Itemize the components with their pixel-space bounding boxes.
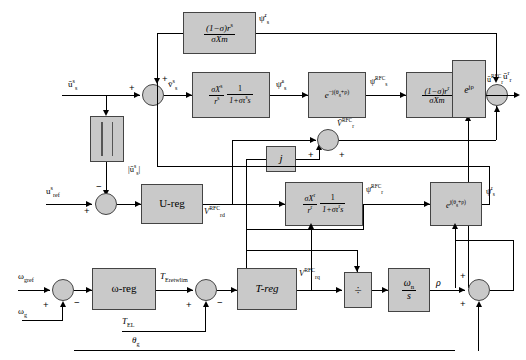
integrator-block: ωn s	[388, 268, 430, 312]
v-s-summer-sign-left: +	[129, 83, 135, 93]
arrow-vrd-into-vrsummer	[310, 137, 316, 143]
divide-block: ÷	[344, 272, 372, 308]
wire-omega-g-up	[62, 304, 63, 321]
signal-psi-r-rfc: ψ̄RFCr	[366, 184, 383, 196]
wire-feedback-bus-up	[157, 33, 158, 166]
speed-sign-bottom: −	[74, 298, 80, 308]
signal-omega-gref: ωgref	[18, 272, 34, 283]
exp-negative-rotation-block: e−j(θg+ρ)	[308, 72, 366, 118]
angle-sign-bottom: +	[460, 299, 466, 309]
wire-psir-to-divide	[246, 250, 358, 251]
angle-summer	[468, 279, 490, 301]
wire-psir-left	[246, 229, 364, 230]
exp-rho-block: ejρ	[452, 60, 486, 118]
wire-vrd-to-summer	[232, 140, 316, 141]
v-r-sign-left: +	[308, 150, 314, 160]
signal-u-r-rfc: ūRFCr	[487, 74, 503, 86]
omega-regulator-block: ω-reg	[92, 268, 156, 310]
angle-sign-left: +	[460, 271, 466, 281]
wire-omega-g	[22, 320, 63, 321]
signal-u-s-s: ūss	[68, 78, 77, 91]
signal-u-r-r: ūrr	[503, 70, 512, 83]
abs-bars-icon	[101, 122, 114, 156]
signal-omega-g: ωg	[18, 307, 27, 318]
signal-psi-s-rfc: ψ̄RFCs	[370, 76, 387, 88]
speed-error-summer	[52, 279, 74, 301]
torque-sign-left: +	[186, 300, 192, 310]
u-regulator-block: U-reg	[141, 184, 203, 224]
stator-coupling-block: (1−σ)rs σXm	[183, 12, 256, 54]
wire-input-us	[62, 95, 140, 96]
wire-psisr-up	[489, 166, 490, 204]
absolute-value-block	[90, 116, 124, 162]
wire-anglesum-out	[490, 290, 514, 291]
divide-label: ÷	[354, 283, 361, 297]
wire-vr-up-to-ursummer	[496, 106, 497, 140]
t-reg-label: T-reg	[255, 283, 278, 295]
j-label: j	[279, 153, 282, 165]
wire-vrq-up	[311, 226, 312, 290]
wire-top-coupling-left-h	[157, 33, 183, 34]
u-error-sign-left: +	[84, 206, 90, 216]
u-error-summer	[95, 193, 117, 215]
wire-psir-bus-down	[246, 229, 247, 251]
arrow-into-divide	[336, 287, 342, 293]
signal-v-s-s: v̄ss	[168, 78, 177, 91]
wire-theta-g-bus	[74, 350, 455, 351]
rotor-transfer-block: σXr rr 1 1+στrs	[285, 182, 363, 226]
wire-vrd-up	[232, 140, 233, 204]
arrow-omegagref-into-summer	[44, 287, 50, 293]
v-s-summer-sign-top: +	[162, 74, 168, 84]
signal-u-ref-s: usref	[46, 185, 60, 198]
signal-theta-g: θg	[132, 336, 139, 347]
stator-coupling-num: (1−σ)r	[206, 23, 231, 33]
arrow-angle-into-exp-pos	[452, 223, 458, 229]
wire-thetag-up	[478, 304, 479, 351]
v-r-rfc-summer	[317, 129, 339, 151]
signal-t-el: TEL	[122, 317, 134, 328]
wire-ureg-out	[203, 204, 285, 205]
signal-t-eretwlim: TEretwlim	[160, 272, 188, 283]
control-block-diagram: (1−σ)rs σXm ψ̄rs ūss + + v̄ss σXs rs	[0, 0, 526, 360]
signal-abs-u-s: |ūss|	[128, 164, 140, 176]
t-regulator-block: T-reg	[237, 268, 297, 310]
signal-psi-s-s: ψ̄ss	[276, 78, 286, 91]
stator-coupling-num-sup: s	[231, 22, 233, 28]
arrow-rho-into-anglesummer	[459, 287, 465, 293]
wire-psir-down	[363, 204, 364, 230]
v-s-summer	[142, 84, 164, 106]
wire-psisr-left	[224, 166, 490, 167]
signal-v-rq-rfc: VRFCrq	[299, 268, 320, 280]
wire-psisr-out	[482, 204, 490, 205]
signal-v-r-rfc: V̄RFCr	[337, 118, 354, 130]
u-error-sign-top: −	[96, 182, 102, 192]
wire-psir-out	[363, 204, 430, 205]
stator-coupling-den: σXm	[204, 34, 235, 44]
torque-sign-right: −	[217, 298, 223, 308]
u-reg-label: U-reg	[159, 198, 185, 210]
wire-top-coupling-out	[256, 33, 497, 34]
arrow-vrq-up	[308, 223, 314, 229]
signal-psi-s-r-top: ψ̄rs	[259, 12, 269, 25]
wire-anglebus-left	[455, 240, 514, 241]
wire-angle-to-exp-pos	[455, 226, 456, 288]
exp-positive-rotation-block: ej(θg+ρ)	[430, 182, 482, 226]
wire-tel-up	[205, 304, 206, 332]
j-multiplier-block: j	[266, 146, 296, 172]
signal-psi-s-r-right: ψ̄rs	[486, 186, 495, 198]
wire-vr-out	[339, 140, 496, 141]
torque-error-summer	[195, 279, 217, 301]
speed-sign-left: +	[43, 300, 49, 310]
arrow-into-torque-summer	[187, 287, 193, 293]
omega-reg-label: ω-reg	[112, 283, 137, 295]
wire-feedback-bus-top	[157, 166, 225, 167]
wire-tel	[122, 331, 206, 332]
arrow-output-ur	[514, 92, 520, 98]
signal-rho: ρ	[436, 278, 441, 288]
wire-into-j	[246, 159, 266, 160]
arrow-into-divide-top	[354, 266, 360, 272]
signal-v-rd-rfc: VRFCrd	[204, 206, 225, 218]
v-r-sign-right: +	[339, 150, 345, 160]
wire-psir-fb-up	[246, 159, 247, 279]
wire-anglesum-up	[513, 240, 514, 291]
